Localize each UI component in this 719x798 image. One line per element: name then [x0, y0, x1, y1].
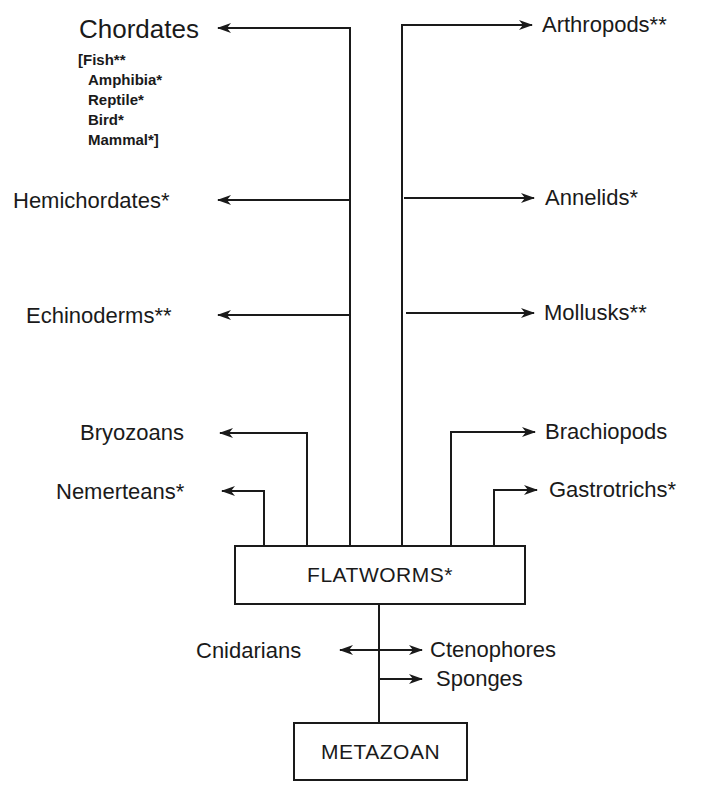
node-flatworms: FLATWORMS* — [234, 545, 526, 605]
node-brachiopods: Brachiopods — [545, 421, 667, 443]
node-nemerteans: Nemerteans* — [56, 481, 184, 503]
node-metazoan: METAZOAN — [293, 722, 468, 781]
node-chordates: Chordates — [79, 16, 199, 42]
node-mollusks: Mollusks** — [544, 302, 647, 324]
chordates-bird: Bird* — [88, 110, 124, 129]
node-gastrotrichs: Gastrotrichs* — [549, 479, 676, 501]
chordates-fish: [Fish** — [78, 50, 126, 69]
node-sponges: Sponges — [436, 668, 523, 690]
chordates-amphibia: Amphibia* — [88, 70, 162, 89]
chordates-mammal: Mammal*] — [88, 130, 159, 149]
node-bryozoans: Bryozoans — [80, 422, 184, 444]
chordates-reptile: Reptile* — [88, 90, 144, 109]
node-annelids: Annelids* — [545, 187, 638, 209]
node-echinoderms: Echinoderms** — [26, 305, 172, 327]
node-arthropods: Arthropods** — [542, 14, 667, 36]
node-hemichordates: Hemichordates* — [13, 190, 170, 212]
node-cnidarians: Cnidarians — [196, 640, 301, 662]
node-ctenophores: Ctenophores — [430, 639, 556, 661]
